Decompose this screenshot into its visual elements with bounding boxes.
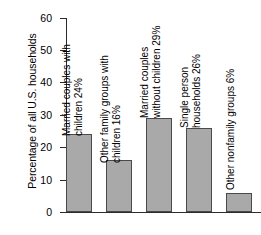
y-tick-label-50: 50 [26, 45, 52, 56]
bar-annotation-2: Married couples without children 29% [139, 26, 162, 118]
bar-other-nonfamily-groups [226, 193, 252, 212]
bar-annotation-0: Married couples with children 24% [61, 44, 84, 136]
y-tick-label-10: 10 [26, 175, 52, 186]
x-axis-line [66, 212, 261, 213]
bar-other-family-groups-with-children [106, 160, 132, 212]
y-tick-label-0: 0 [26, 207, 52, 218]
bar-married-couples-without-children [146, 118, 172, 212]
bar-single-person-households [186, 128, 212, 212]
y-tick-label-20: 20 [26, 142, 52, 153]
y-tick-label-30: 30 [26, 110, 52, 121]
bar-annotation-3: Single person households 26% [179, 54, 202, 128]
bar-married-couples-with-children [66, 134, 92, 212]
y-tick-label-60: 60 [26, 13, 52, 24]
bar-chart: Percentage of all U.S. households 60 50 … [0, 0, 261, 235]
y-tick-label-40: 40 [26, 77, 52, 88]
bar-annotation-4: Other nonfamily groups 6% [225, 69, 237, 190]
bar-annotation-1: Other family groups with children 16% [99, 55, 122, 163]
